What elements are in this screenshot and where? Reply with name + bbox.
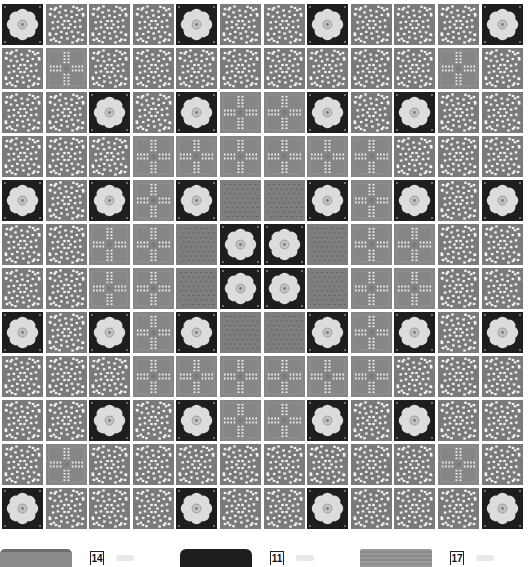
tile-lace (46, 92, 87, 133)
lace-motif-icon (482, 92, 523, 133)
flower-motif-icon (176, 488, 217, 529)
cross-motif-icon (307, 136, 348, 177)
lace-motif-icon (2, 356, 43, 397)
texture-motif-icon (307, 224, 348, 265)
tile-texture (264, 312, 305, 353)
tile-cross (176, 136, 217, 177)
lace-motif-icon (133, 92, 174, 133)
tile-cross (351, 180, 392, 221)
cross-motif-icon (220, 400, 261, 441)
flower-motif-icon (2, 180, 43, 221)
texture-motif-icon (264, 180, 305, 221)
tile-cross (264, 92, 305, 133)
cross-motif-icon (46, 48, 87, 89)
lace-motif-icon (133, 400, 174, 441)
cross-motif-icon (133, 224, 174, 265)
lace-motif-icon (46, 488, 87, 529)
cross-motif-icon (351, 180, 392, 221)
lace-motif-icon (220, 488, 261, 529)
tile-flower (2, 4, 43, 45)
flower-motif-icon (482, 180, 523, 221)
flower-motif-icon (2, 488, 43, 529)
tile-cross (264, 356, 305, 397)
tile-flower (176, 4, 217, 45)
cross-motif-icon (89, 224, 130, 265)
tile-flower (264, 268, 305, 309)
lace-motif-icon (2, 48, 43, 89)
tile-flower (307, 4, 348, 45)
cross-motif-icon (351, 224, 392, 265)
tile-cross (46, 444, 87, 485)
texture-motif-icon (220, 180, 261, 221)
cross-motif-icon (133, 356, 174, 397)
tile-lace (2, 224, 43, 265)
tile-lace (89, 136, 130, 177)
lace-motif-icon (89, 444, 130, 485)
lace-motif-icon (133, 48, 174, 89)
cross-motif-icon (438, 444, 479, 485)
flower-motif-icon (307, 4, 348, 45)
tile-lace (89, 356, 130, 397)
tile-cross (133, 356, 174, 397)
tile-lace (482, 444, 523, 485)
lace-motif-icon (438, 356, 479, 397)
lace-motif-icon (46, 268, 87, 309)
flower-motif-icon (307, 488, 348, 529)
tile-lace (133, 488, 174, 529)
cross-motif-icon (220, 136, 261, 177)
tile-lace (307, 444, 348, 485)
lace-motif-icon (438, 400, 479, 441)
flower-motif-icon (482, 4, 523, 45)
tile-lace (264, 48, 305, 89)
lace-motif-icon (46, 4, 87, 45)
flower-motif-icon (264, 268, 305, 309)
legend-number: 14 (90, 551, 104, 565)
tile-texture (176, 268, 217, 309)
legend-swatch-cross (360, 549, 432, 567)
tile-lace (438, 356, 479, 397)
tile-lace (438, 224, 479, 265)
blanket-grid (2, 4, 526, 532)
tile-flower (176, 92, 217, 133)
cross-motif-icon (351, 312, 392, 353)
tile-flower (307, 312, 348, 353)
tile-lace (46, 312, 87, 353)
flower-motif-icon (89, 312, 130, 353)
tile-lace (264, 4, 305, 45)
tile-cross (438, 48, 479, 89)
legend-swatch-lace (0, 549, 72, 567)
tile-lace (2, 400, 43, 441)
cross-motif-icon (220, 92, 261, 133)
tile-lace (351, 488, 392, 529)
lace-motif-icon (438, 268, 479, 309)
cross-motif-icon (133, 268, 174, 309)
cross-motif-icon (176, 356, 217, 397)
tile-lace (89, 444, 130, 485)
tile-lace (89, 4, 130, 45)
legend: 14 11 17 (0, 547, 528, 567)
cross-motif-icon (264, 400, 305, 441)
tile-lace (46, 488, 87, 529)
flower-motif-icon (307, 180, 348, 221)
tile-flower (307, 180, 348, 221)
tile-flower (394, 400, 435, 441)
flower-motif-icon (482, 488, 523, 529)
tile-flower (482, 4, 523, 45)
cross-motif-icon (89, 268, 130, 309)
lace-motif-icon (394, 4, 435, 45)
flower-motif-icon (394, 180, 435, 221)
tile-cross (220, 400, 261, 441)
texture-motif-icon (264, 312, 305, 353)
tile-lace (351, 444, 392, 485)
tile-flower (394, 312, 435, 353)
lace-motif-icon (351, 444, 392, 485)
lace-motif-icon (394, 136, 435, 177)
flower-motif-icon (220, 268, 261, 309)
tile-flower (89, 312, 130, 353)
cross-motif-icon (264, 356, 305, 397)
tile-cross (351, 268, 392, 309)
tile-lace (176, 48, 217, 89)
tile-lace (482, 48, 523, 89)
tile-flower (2, 488, 43, 529)
flower-motif-icon (176, 312, 217, 353)
